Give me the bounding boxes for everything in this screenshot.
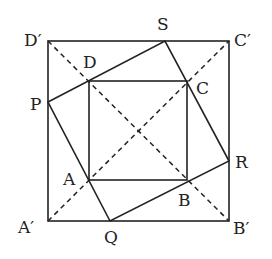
label-c: C xyxy=(196,78,209,98)
label-b: B xyxy=(178,190,191,210)
label-d-prime: D′ xyxy=(24,30,42,50)
label-a: A xyxy=(62,169,76,189)
geometry-diagram: D′ C′ B′ A′ D C B A P S R Q xyxy=(0,0,272,259)
label-d: D xyxy=(83,52,97,72)
label-c-prime: C′ xyxy=(234,30,251,50)
label-s: S xyxy=(157,14,169,34)
label-p: P xyxy=(30,94,41,114)
label-r: R xyxy=(235,152,249,172)
label-b-prime: B′ xyxy=(233,218,249,238)
label-q: Q xyxy=(104,227,118,247)
label-a-prime: A′ xyxy=(17,217,34,237)
